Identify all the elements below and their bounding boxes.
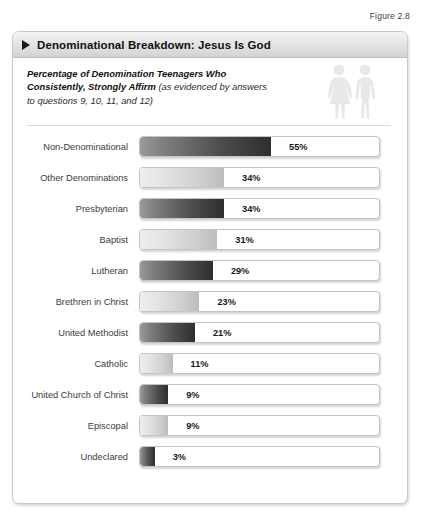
bar-row: Non-Denominational55% — [13, 131, 407, 162]
bar-category-label: Catholic — [13, 359, 139, 369]
bar-value-label: 9% — [186, 385, 199, 404]
bar-row: Brethren in Christ23% — [13, 286, 407, 317]
bar-value-label: 21% — [213, 323, 231, 342]
bar-category-label: Undeclared — [13, 452, 139, 462]
bar-fill — [140, 168, 224, 187]
bar-category-label: Episcopal — [13, 421, 139, 431]
bar-category-label: Baptist — [13, 235, 139, 245]
page-title: Denominational Breakdown: Jesus Is God — [37, 39, 271, 51]
bar-track: 55% — [139, 136, 380, 157]
bar-fill — [140, 385, 168, 404]
bar-value-label: 9% — [186, 416, 199, 435]
figure-panel: Denominational Breakdown: Jesus Is God P… — [12, 31, 408, 504]
bar-track: 9% — [139, 384, 380, 405]
bar-fill — [140, 323, 195, 342]
subtitle-region: Percentage of Denomination Teenagers Who… — [13, 58, 407, 126]
bar-value-label: 3% — [173, 447, 186, 466]
bar-fill — [140, 261, 213, 280]
bar-row: United Church of Christ9% — [13, 379, 407, 410]
bar-value-label: 11% — [191, 354, 209, 373]
bar-category-label: Brethren in Christ — [13, 297, 139, 307]
bar-track: 11% — [139, 353, 380, 374]
bar-track: 31% — [139, 229, 380, 250]
figure-caption: Figure 2.8 — [370, 11, 410, 21]
bar-track: 9% — [139, 415, 380, 436]
bar-row: Presbyterian34% — [13, 193, 407, 224]
bar-row: Lutheran29% — [13, 255, 407, 286]
bar-value-label: 23% — [217, 292, 235, 311]
bar-row: Undeclared3% — [13, 441, 407, 472]
people-pair-icon — [320, 62, 382, 122]
bar-value-label: 31% — [235, 230, 253, 249]
bar-fill — [140, 137, 271, 156]
bar-fill — [140, 447, 155, 466]
bar-row: Other Denominations34% — [13, 162, 407, 193]
bar-category-label: Non-Denominational — [13, 142, 139, 152]
bar-row: Episcopal9% — [13, 410, 407, 441]
bar-fill — [140, 230, 217, 249]
triangle-right-icon — [22, 40, 30, 50]
bar-value-label: 29% — [231, 261, 249, 280]
bar-row: Baptist31% — [13, 224, 407, 255]
bar-track: 29% — [139, 260, 380, 281]
bar-fill — [140, 292, 199, 311]
bar-category-label: Other Denominations — [13, 173, 139, 183]
bar-track: 23% — [139, 291, 380, 312]
bar-row: United Methodist21% — [13, 317, 407, 348]
bar-category-label: Lutheran — [13, 266, 139, 276]
panel-title-bar: Denominational Breakdown: Jesus Is God — [13, 32, 407, 58]
bar-track: 21% — [139, 322, 380, 343]
bar-category-label: United Church of Christ — [13, 390, 139, 400]
bar-row: Catholic11% — [13, 348, 407, 379]
bar-track: 34% — [139, 198, 380, 219]
chart-subtitle: Percentage of Denomination Teenagers Who… — [27, 67, 277, 107]
bar-fill — [140, 199, 224, 218]
bar-value-label: 34% — [242, 199, 260, 218]
bar-track: 34% — [139, 167, 380, 188]
bar-track: 3% — [139, 446, 380, 467]
bar-fill — [140, 416, 168, 435]
bar-fill — [140, 354, 173, 373]
bar-chart: Non-Denominational55%Other Denominations… — [13, 126, 407, 472]
bar-category-label: Presbyterian — [13, 204, 139, 214]
bar-value-label: 34% — [242, 168, 260, 187]
bar-value-label: 55% — [289, 137, 307, 156]
bar-category-label: United Methodist — [13, 328, 139, 338]
